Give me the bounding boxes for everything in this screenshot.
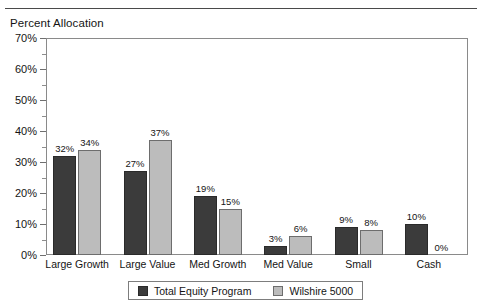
x-tick-label: Med Growth bbox=[189, 258, 246, 270]
bar-value-label: 32% bbox=[55, 143, 74, 154]
bar-value-label: 8% bbox=[364, 217, 378, 228]
y-tick-label: 30% bbox=[15, 156, 37, 168]
bar-value-label: 3% bbox=[269, 233, 283, 244]
chart-title: Percent Allocation bbox=[10, 17, 104, 29]
bar-value-label: 10% bbox=[407, 211, 426, 222]
x-tick-label: Cash bbox=[417, 258, 442, 270]
bar bbox=[219, 209, 242, 256]
x-tick-label: Large Value bbox=[120, 258, 176, 270]
bar-value-label: 34% bbox=[80, 137, 99, 148]
bar-value-label: 6% bbox=[294, 223, 308, 234]
bar bbox=[335, 227, 358, 255]
legend-label: Wilshire 5000 bbox=[289, 285, 353, 297]
y-tick-label: 40% bbox=[15, 125, 37, 137]
legend-item: Total Equity Program bbox=[138, 285, 251, 297]
header-divider bbox=[5, 8, 477, 9]
legend-swatch-icon bbox=[273, 286, 283, 296]
y-tick-label: 0% bbox=[21, 249, 37, 261]
bar bbox=[78, 150, 101, 255]
legend-swatch-icon bbox=[138, 286, 148, 296]
y-tick-label: 50% bbox=[15, 94, 37, 106]
bar-value-label: 9% bbox=[339, 214, 353, 225]
x-axis: Large GrowthLarge ValueMed GrowthMed Val… bbox=[46, 258, 468, 276]
bars-layer: 32%34%27%37%19%15%3%6%9%8%10%0% bbox=[46, 38, 468, 255]
y-tick-label: 60% bbox=[15, 63, 37, 75]
y-tick-label: 20% bbox=[15, 187, 37, 199]
chart-legend: Total Equity ProgramWilshire 5000 bbox=[128, 281, 363, 300]
bar bbox=[289, 236, 312, 255]
x-tick-label: Small bbox=[345, 258, 371, 270]
bar-value-label: 37% bbox=[150, 127, 169, 138]
bar-value-label: 19% bbox=[196, 183, 215, 194]
x-tick-label: Large Growth bbox=[45, 258, 109, 270]
legend-item: Wilshire 5000 bbox=[273, 285, 353, 297]
y-tick-label: 10% bbox=[15, 218, 37, 230]
y-tick-label: 70% bbox=[15, 32, 37, 44]
y-tick-major bbox=[40, 255, 46, 256]
bar bbox=[124, 171, 147, 255]
bar-value-label: 15% bbox=[221, 196, 240, 207]
x-tick-label: Med Value bbox=[263, 258, 312, 270]
bar-value-label: 0% bbox=[434, 242, 448, 253]
bar bbox=[360, 230, 383, 255]
y-axis: 70%60%50%40%30%20%10%0% bbox=[0, 38, 46, 255]
chart-page: Percent Allocation 70%60%50%40%30%20%10%… bbox=[0, 0, 482, 308]
bar bbox=[264, 246, 287, 255]
bar bbox=[194, 196, 217, 255]
bar bbox=[53, 156, 76, 255]
bar bbox=[149, 140, 172, 255]
bar bbox=[405, 224, 428, 255]
legend-label: Total Equity Program bbox=[154, 285, 251, 297]
bar-value-label: 27% bbox=[125, 158, 144, 169]
